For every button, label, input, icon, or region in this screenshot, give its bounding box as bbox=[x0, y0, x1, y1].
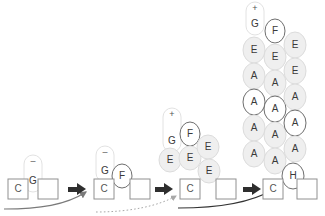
group-4-residue-label-2: A bbox=[251, 96, 258, 107]
group-1-unit-label-0: C bbox=[14, 183, 21, 194]
group-4-residue-label-11: E bbox=[292, 39, 299, 50]
group-4-residue-g: G bbox=[251, 18, 259, 29]
group-3: +GEFEEEC bbox=[159, 108, 236, 199]
group-4-residue-label-10: A bbox=[272, 155, 279, 166]
group-3-residue-label-3: E bbox=[205, 141, 212, 152]
group-1-residue-g: G bbox=[29, 175, 37, 186]
group-4-residue-label-16: H bbox=[289, 170, 296, 181]
group-4-residue-label-9: A bbox=[272, 129, 279, 140]
group-2-unit-empty bbox=[130, 179, 150, 199]
group-4-unit-empty bbox=[297, 179, 317, 199]
step-arrow-3 bbox=[243, 183, 261, 195]
group-4-residue-label-6: E bbox=[272, 51, 279, 62]
group-3-residue-g: G bbox=[168, 135, 176, 146]
group-2: –GFC bbox=[94, 146, 150, 199]
group-3-unit-empty bbox=[216, 179, 236, 199]
group-4-residue-label-12: E bbox=[292, 65, 299, 76]
group-4-residue-label-8: A bbox=[272, 103, 279, 114]
group-4-unit-label-0: C bbox=[269, 183, 276, 194]
group-4: +GEAAAAFEAAAAEEAAAHC bbox=[243, 2, 317, 199]
group-2-charge-label: – bbox=[102, 147, 107, 157]
group-4-residue-label-3: A bbox=[251, 122, 258, 133]
group-2-unit-label-0: C bbox=[100, 183, 107, 194]
group-4-charge-label: + bbox=[252, 3, 257, 13]
group-4-residue-label-13: A bbox=[292, 91, 299, 102]
group-4-residue-label-15: A bbox=[292, 143, 299, 154]
group-2-residue-label-0: F bbox=[119, 170, 125, 181]
group-4-residue-label-5: F bbox=[272, 25, 278, 36]
group-4-residue-label-0: E bbox=[251, 44, 258, 55]
group-3-charge-label: + bbox=[169, 109, 174, 119]
group-1-charge-label: – bbox=[30, 156, 35, 166]
group-4-residue-label-1: A bbox=[251, 70, 258, 81]
group-4-residue-label-14: A bbox=[292, 117, 299, 128]
group-1: –GC bbox=[8, 155, 58, 199]
group-4-residue-label-4: A bbox=[251, 148, 258, 159]
molecule-groups-layer: –GC–GFC+GEFEEEC+GEAAAAFEAAAAEEAAAHC bbox=[8, 2, 317, 199]
group-1-unit-empty bbox=[38, 179, 58, 199]
group-3-unit-label-0: C bbox=[186, 183, 193, 194]
reaction-diagram: –GC–GFC+GEFEEEC+GEAAAAFEAAAAEEAAAHC bbox=[0, 0, 325, 216]
diagram-canvas: –GC–GFC+GEFEEEC+GEAAAAFEAAAAEEAAAHC bbox=[0, 0, 325, 216]
group-3-residue-label-0: E bbox=[167, 154, 174, 165]
group-3-residue-label-4: E bbox=[206, 165, 213, 176]
step-arrow-2 bbox=[155, 183, 173, 195]
group-2-residue-g: G bbox=[101, 165, 109, 176]
group-4-residue-label-7: A bbox=[272, 77, 279, 88]
group-3-residue-label-1: F bbox=[187, 128, 193, 139]
group-3-residue-label-2: E bbox=[187, 152, 194, 163]
